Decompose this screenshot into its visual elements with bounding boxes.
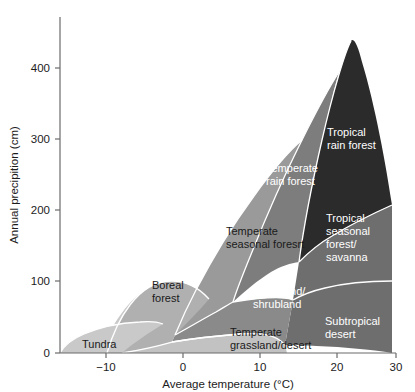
biome-label-woodland-shrubland: Woodland/ shrubland: [253, 285, 308, 310]
x-tick-label-10: 10: [254, 361, 267, 373]
y-tick-label-100: 100: [31, 275, 50, 287]
chart-canvas: 400 300 200 100 0 −10 0 10 20 30 Average…: [0, 0, 415, 392]
x-tick-label-20: 20: [331, 361, 344, 373]
y-tick-label-200: 200: [31, 204, 50, 216]
x-axis-title: Average temperature (°C): [162, 378, 294, 390]
x-tick-label-30: 30: [390, 361, 403, 373]
y-tick-label-300: 300: [31, 133, 50, 145]
biome-label-tundra: Tundra: [82, 338, 117, 350]
biome-label-temperate-rain-forest: Temperate rain forest: [266, 162, 321, 187]
whittaker-biome-chart: 400 300 200 100 0 −10 0 10 20 30 Average…: [0, 0, 415, 392]
y-tick-labels: 400 300 200 100 0: [31, 62, 50, 359]
x-tick-label-0: 0: [180, 361, 186, 373]
x-tick-labels: −10 0 10 20 30: [96, 361, 402, 373]
y-tick-label-0: 0: [44, 347, 50, 359]
y-tick-label-400: 400: [31, 62, 50, 74]
biome-label-tropical-rain-forest: Tropical rain forest: [327, 126, 376, 151]
y-axis-title: Annual precipition (cm): [8, 126, 20, 244]
x-tick-label-minus10: −10: [96, 361, 116, 373]
